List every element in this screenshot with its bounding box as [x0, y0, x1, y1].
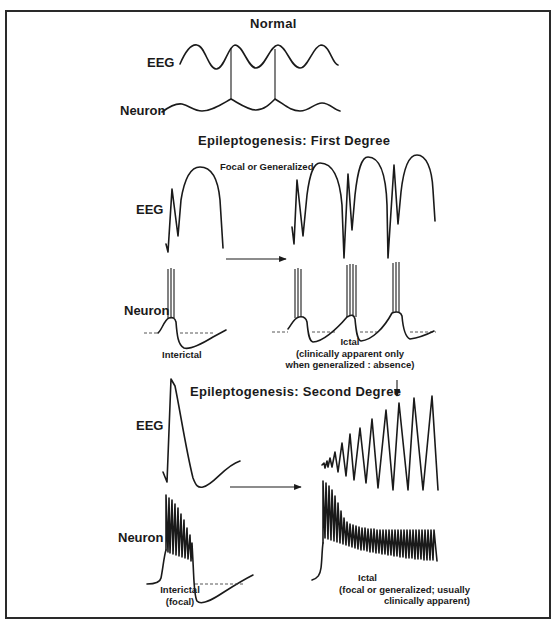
interictal-burst	[166, 495, 253, 603]
first-degree-interictal-eeg-trace	[166, 167, 223, 252]
second-degree-ictal-eeg-trace	[322, 396, 438, 490]
second-degree-interictal-eeg-trace	[163, 379, 240, 487]
second-degree-ictal-neuron-trace	[312, 543, 323, 580]
diagram-traces	[0, 0, 557, 626]
second-degree-interictal-neuron-trace	[147, 550, 166, 584]
ictal-burst	[323, 481, 437, 561]
normal-neuron-trace	[162, 99, 340, 112]
normal-eeg-trace	[180, 45, 338, 69]
first-degree-ictal-neuron-trace	[288, 312, 434, 342]
first-degree-ictal-eeg-trace	[292, 155, 435, 258]
